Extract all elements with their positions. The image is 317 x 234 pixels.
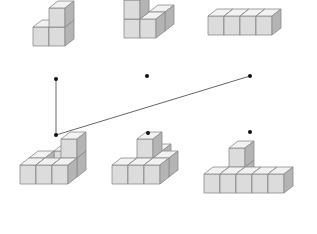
cube-front-face: [144, 165, 160, 184]
cube-front-face: [252, 174, 268, 193]
cube: [268, 167, 293, 193]
cube: [61, 132, 86, 158]
cube-front-face: [224, 16, 240, 35]
cube-front-face: [128, 165, 144, 184]
cube-front-face: [112, 165, 128, 184]
cube-front-face: [229, 148, 245, 167]
bottom-match-dot[interactable]: [54, 133, 58, 137]
cube-front-face: [236, 174, 252, 193]
cube: [49, 1, 74, 27]
cube: [229, 141, 254, 167]
cube-front-face: [268, 174, 284, 193]
top-match-dot[interactable]: [145, 74, 149, 78]
cube: [52, 158, 77, 184]
cube-front-face: [124, 19, 140, 38]
figure-top-1: [33, 1, 74, 46]
figure-top-2: [124, 0, 174, 38]
cube-front-face: [52, 165, 68, 184]
matching-diagram: [0, 0, 317, 234]
cube-front-face: [240, 16, 256, 35]
cube-front-face: [36, 165, 52, 184]
cube-front-face: [20, 165, 36, 184]
cube-front-face: [137, 139, 153, 158]
cube-front-face: [49, 27, 65, 46]
cube-front-face: [208, 16, 224, 35]
cube: [137, 132, 162, 158]
cube-front-face: [61, 139, 77, 158]
cube-front-face: [204, 174, 220, 193]
cube-front-face: [220, 174, 236, 193]
figure-top-3: [208, 9, 281, 35]
figure-bottom-3: [204, 141, 293, 193]
cube-front-face: [140, 19, 156, 38]
cube-front-face: [256, 16, 272, 35]
cube-front-face: [49, 8, 65, 27]
top-match-dot[interactable]: [54, 77, 58, 81]
figure-bottom-2: [112, 132, 178, 184]
connection-lines: [56, 76, 250, 135]
top-match-dot[interactable]: [248, 74, 252, 78]
cube-front-face: [33, 27, 49, 46]
figure-bottom-1: [20, 132, 86, 184]
cube-figures: [20, 0, 293, 193]
bottom-match-dot[interactable]: [146, 131, 150, 135]
connection-line: [56, 76, 250, 135]
cube-front-face: [124, 0, 140, 19]
cube: [256, 9, 281, 35]
cube: [144, 158, 169, 184]
bottom-match-dot[interactable]: [248, 130, 252, 134]
